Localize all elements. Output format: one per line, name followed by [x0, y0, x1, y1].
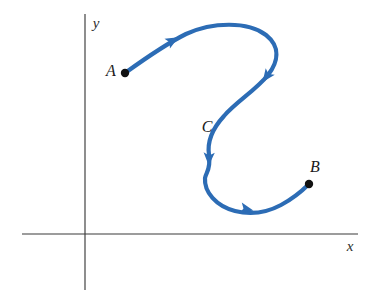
axes-group — [22, 14, 358, 290]
curve-c-group — [125, 25, 309, 216]
curve-label-c: C — [202, 118, 213, 135]
point-label-a: A — [105, 62, 116, 79]
endpoint-dot-b — [305, 180, 313, 188]
figure-canvas: x y AB C — [0, 0, 369, 292]
endpoint-dot-a — [121, 69, 129, 77]
x-axis-label: x — [346, 238, 354, 254]
y-axis-label: y — [91, 15, 100, 31]
point-label-b: B — [310, 158, 320, 175]
endpoints-group: AB — [105, 62, 320, 189]
curve-c-path — [125, 25, 309, 213]
coordinate-plane-diagram: x y AB C — [0, 0, 369, 292]
